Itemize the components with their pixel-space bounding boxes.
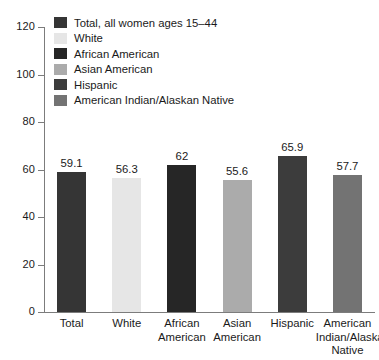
x-axis-category-label-line: Asian [206, 317, 269, 331]
x-axis-category-label-line: Native [316, 344, 379, 358]
x-axis-line [44, 312, 375, 313]
x-axis-category-label-line: American [206, 331, 269, 345]
plot-area: 59.156.36255.665.957.7 [44, 27, 375, 312]
x-axis-category-label-line: Hispanic [261, 317, 324, 331]
bar-value-label: 59.1 [61, 157, 83, 169]
x-axis-category-label-line: American [316, 317, 379, 331]
y-axis-tick: 60 [0, 170, 44, 171]
bar-group: 56.3 [112, 27, 141, 312]
bar [57, 172, 86, 312]
bar-value-label: 55.6 [226, 165, 248, 177]
bar-value-label: 62 [176, 150, 189, 162]
bar-group: 55.6 [223, 27, 252, 312]
y-axis-tick-label: 80 [3, 116, 35, 127]
bar [112, 178, 141, 312]
y-axis-tick-label: 120 [3, 21, 35, 32]
x-axis-category-label: AmericanIndian/AlaskanNative [316, 317, 379, 358]
bar [223, 180, 252, 312]
bar-value-label: 65.9 [281, 141, 303, 153]
x-axis-category-label: Hispanic [261, 317, 324, 331]
y-axis-tick-label: 100 [3, 69, 35, 80]
bar-value-label: 57.7 [336, 160, 358, 172]
y-axis-tick-label: 40 [3, 211, 35, 222]
y-axis-tick: 20 [0, 265, 44, 266]
bar [333, 175, 362, 312]
x-axis-category-label: AsianAmerican [206, 317, 269, 344]
bar-value-label: 56.3 [116, 163, 138, 175]
y-axis-tick-label: 0 [3, 306, 35, 317]
bar-chart: 020406080100120 Total, all women ages 15… [0, 0, 379, 360]
bar [278, 156, 307, 313]
y-axis-tick: 80 [0, 122, 44, 123]
y-axis-tick: 0 [0, 312, 44, 313]
x-axis-category-label-line: Total [40, 317, 103, 331]
y-axis-tick-label: 20 [3, 259, 35, 270]
bar-group: 59.1 [57, 27, 86, 312]
y-axis-tick-label: 60 [3, 164, 35, 175]
x-axis-category-label-line: Indian/Alaskan [316, 331, 379, 345]
x-axis-category-label: AfricanAmerican [150, 317, 213, 344]
bar-group: 57.7 [333, 27, 362, 312]
bar-group: 65.9 [278, 27, 307, 312]
y-axis-tick: 40 [0, 217, 44, 218]
x-axis-category-label: Total [40, 317, 103, 331]
y-axis-tick: 100 [0, 75, 44, 76]
x-axis-category-label-line: African [150, 317, 213, 331]
y-axis-tick: 120 [0, 27, 44, 28]
x-axis-category-label-line: American [150, 331, 213, 345]
x-axis-category-label-line: White [95, 317, 158, 331]
bar [167, 165, 196, 312]
x-axis-category-label: White [95, 317, 158, 331]
bar-group: 62 [167, 27, 196, 312]
